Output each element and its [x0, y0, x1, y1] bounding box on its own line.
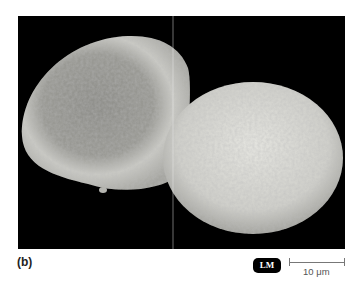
scale-bar-label: 10 μm — [303, 266, 330, 277]
scale-bar-tick-right — [344, 258, 345, 266]
scale-bar-line — [289, 262, 345, 263]
scale-bar — [289, 258, 345, 266]
right-cell — [163, 82, 343, 234]
micrograph-image — [18, 16, 345, 249]
panel-label: (b) — [17, 255, 32, 269]
micrograph-panel — [18, 16, 345, 249]
lm-badge: LM — [253, 258, 281, 273]
scale-bar-tick-left — [289, 258, 290, 266]
